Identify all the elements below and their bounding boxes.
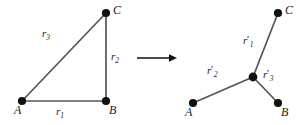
edge-label-r2: r2	[111, 51, 119, 62]
vertex-label-a: A	[14, 104, 21, 116]
edge-label-r2-prime-mark: ′	[210, 63, 212, 75]
vertex-label-b-prime: B	[281, 106, 288, 118]
vertex-c-dot	[102, 9, 110, 17]
edge-r3-prime-line	[253, 77, 278, 103]
diagram-svg	[0, 0, 303, 125]
edge-label-r2-sub: 2	[115, 56, 119, 65]
edge-label-r2-prime: r′2	[207, 65, 217, 76]
vertex-label-c-prime: C	[285, 4, 293, 16]
vertex-label-a-prime: A	[185, 106, 192, 118]
edge-label-r3-prime-sub: 3	[270, 74, 274, 83]
figure-container: A B C r1 r2 r3 A B C r′1 r′2 r′3	[0, 0, 303, 125]
edge-label-r1: r1	[56, 106, 64, 117]
edge-label-r3-sub: 3	[46, 33, 50, 42]
vertex-c-prime-dot	[274, 9, 282, 17]
transform-arrow-icon	[137, 54, 177, 62]
edge-label-r1-prime-mark: ′	[246, 33, 248, 45]
vertex-label-c: C	[113, 4, 121, 16]
edge-label-r3: r3	[42, 28, 50, 39]
edge-label-r1-prime-sub: 1	[250, 40, 254, 49]
edge-label-r2-prime-sub: 2	[214, 70, 218, 79]
edge-label-r3-prime-mark: ′	[266, 67, 268, 79]
edge-r2-prime-line	[193, 77, 253, 103]
edge-label-r1-prime: r′1	[243, 35, 253, 46]
edge-label-r1-sub: 1	[60, 111, 64, 120]
vertex-junction-dot	[249, 73, 258, 82]
edge-r3-line	[22, 13, 106, 101]
edge-label-r3-prime: r′3	[263, 69, 273, 80]
vertex-label-b: B	[109, 104, 116, 116]
